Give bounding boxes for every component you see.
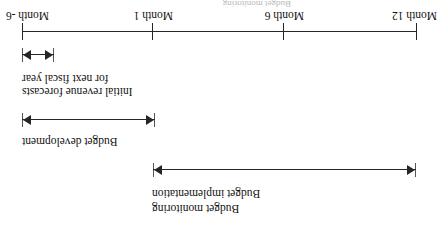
axis-label-month-1: Month 1 — [134, 9, 173, 22]
axis-tick-month-12 — [416, 23, 417, 40]
caption-budget-monitoring: Budget monitoring — [152, 202, 332, 216]
span-budget-implementation — [153, 163, 416, 177]
arrow-head-right-icon — [154, 165, 162, 175]
arrow-head-left-icon — [146, 115, 154, 125]
arrow-head-left-icon — [407, 165, 415, 175]
axis-label-month-6: Month 6 — [265, 9, 304, 22]
arrow-head-right-icon — [23, 50, 31, 60]
budget-cycle-diagram: Budget monitoring Month 12 Month 6 Month… — [0, 0, 441, 240]
span-bar — [22, 119, 155, 121]
axis-label-month-minus-6: Month -6 — [6, 9, 49, 22]
span-bar — [153, 169, 416, 171]
clipped-footnote-text: Budget monitoring — [223, 0, 291, 9]
caption-budget-implementation: Budget implementation — [152, 187, 332, 201]
span-initial-revenue-forecasts — [22, 48, 54, 62]
arrow-head-right-icon — [23, 115, 31, 125]
span-budget-development — [22, 113, 155, 127]
caption-budget-development: Budget development — [22, 135, 182, 149]
timeline-axis-line — [22, 31, 417, 32]
caption-initial-revenue-forecasts-line-1: Initial revenue forecasts — [22, 85, 202, 99]
figure-canvas: Budget monitoring Month 12 Month 6 Month… — [0, 0, 441, 240]
arrow-head-left-icon — [45, 50, 53, 60]
axis-tick-month-6 — [283, 23, 284, 40]
axis-tick-month-minus-6 — [22, 23, 23, 40]
axis-tick-month-1 — [152, 23, 153, 40]
caption-initial-revenue-forecasts-line-2: for next fiscal year — [22, 72, 202, 86]
axis-label-month-12: Month 12 — [392, 9, 437, 22]
